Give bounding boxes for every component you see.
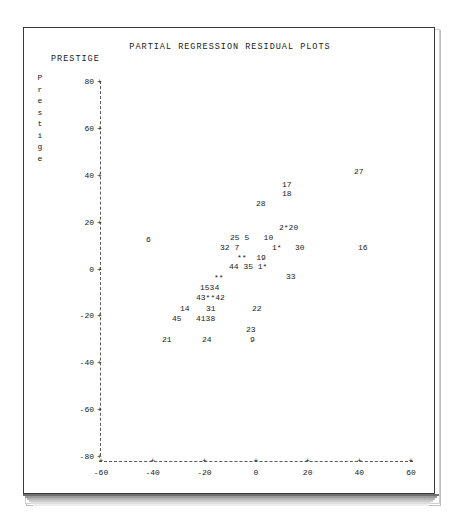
data-point-label-row-27: 27 bbox=[354, 168, 364, 176]
data-point-label-row-2-20: 2*20 bbox=[279, 224, 298, 232]
x-tick-marker: + bbox=[199, 456, 209, 465]
x-tick-marker: + bbox=[148, 456, 158, 465]
data-point-label-row-24: 24 bbox=[202, 336, 212, 344]
y-axis-label-char: t bbox=[34, 118, 46, 130]
data-point-label-row-16: 16 bbox=[358, 244, 368, 252]
y-tick-label: -20 bbox=[48, 311, 94, 320]
y-tick-marker: + bbox=[97, 218, 102, 227]
x-tick-marker: + bbox=[251, 456, 261, 465]
x-tick-marker: + bbox=[354, 456, 364, 465]
data-point-label-row-4138: 4138 bbox=[196, 315, 215, 323]
x-tick-label: 20 bbox=[293, 468, 323, 477]
y-axis-label-char: g bbox=[34, 141, 46, 153]
screenshot-page: PARTIAL REGRESSION RESIDUAL PLOTS PRESTI… bbox=[0, 0, 467, 526]
y-axis-label-char: s bbox=[34, 107, 46, 119]
data-point-label-row-43-42: 43**42 bbox=[196, 294, 225, 302]
x-tick-label: -60 bbox=[86, 468, 116, 477]
y-tick-marker: + bbox=[97, 405, 102, 414]
data-point-label-row-stars-a: ** bbox=[214, 274, 224, 282]
data-point-label-row-31: 31 bbox=[206, 305, 216, 313]
data-point-label-row-30: 30 bbox=[295, 244, 305, 252]
data-point-label-row-17: 17 bbox=[282, 181, 292, 189]
y-tick-label: 0 bbox=[48, 265, 94, 274]
y-tick-marker: + bbox=[97, 358, 102, 367]
y-tick-label: 60 bbox=[48, 124, 94, 133]
y-axis-vertical-label: Prestige bbox=[34, 72, 46, 164]
data-point-label-row-45: 45 bbox=[172, 315, 182, 323]
data-point-label-row-22: 22 bbox=[252, 305, 262, 313]
y-tick-marker: + bbox=[97, 124, 102, 133]
data-point-label-row-18: 18 bbox=[282, 190, 292, 198]
x-tick-marker: + bbox=[406, 456, 416, 465]
data-point-label-row-23: 23 bbox=[246, 326, 256, 334]
data-point-label-row-44-35-1: 44 35 1* bbox=[229, 263, 267, 271]
data-point-label-row-stars-19: ** 19 bbox=[237, 254, 266, 262]
y-tick-marker: + bbox=[97, 311, 102, 320]
data-point-label-row-1star: 1* bbox=[272, 244, 282, 252]
data-point-label-row-6: 6 bbox=[146, 236, 151, 244]
y-axis-label-char: i bbox=[34, 130, 46, 142]
data-point-label-row-9: 9 bbox=[250, 336, 255, 344]
y-axis-header: PRESTIGE bbox=[51, 54, 100, 64]
x-tick-marker: + bbox=[303, 456, 313, 465]
y-axis-label-char: e bbox=[34, 153, 46, 165]
x-tick-label: 40 bbox=[344, 468, 374, 477]
y-tick-label: -40 bbox=[48, 358, 94, 367]
y-tick-label: 20 bbox=[48, 218, 94, 227]
x-tick-label: -40 bbox=[138, 468, 168, 477]
plot-paper: PARTIAL REGRESSION RESIDUAL PLOTS PRESTI… bbox=[23, 27, 435, 494]
paper-bevel-shadow bbox=[23, 494, 439, 506]
y-tick-label: 40 bbox=[48, 171, 94, 180]
y-tick-marker: + bbox=[97, 171, 102, 180]
bevel-row bbox=[33, 504, 429, 506]
y-tick-label: -60 bbox=[48, 405, 94, 414]
data-point-label-row-33: 33 bbox=[286, 273, 296, 281]
page-title: PARTIAL REGRESSION RESIDUAL PLOTS bbox=[24, 42, 436, 52]
x-tick-label: 0 bbox=[241, 468, 271, 477]
data-point-label-row-32-7: 32 7 bbox=[220, 244, 239, 252]
y-axis-label-char: e bbox=[34, 95, 46, 107]
x-tick-marker: + bbox=[96, 456, 106, 465]
y-axis-label-char: r bbox=[34, 84, 46, 96]
y-tick-marker: + bbox=[97, 77, 102, 86]
y-tick-label: -80 bbox=[48, 452, 94, 461]
y-tick-label: 80 bbox=[48, 77, 94, 86]
y-tick-marker: + bbox=[97, 265, 102, 274]
y-axis-label-char: P bbox=[34, 72, 46, 84]
data-point-label-row-25-5-10: 25 5 10 bbox=[230, 234, 273, 242]
x-tick-label: 60 bbox=[396, 468, 426, 477]
x-tick-label: -20 bbox=[189, 468, 219, 477]
data-point-label-row-14: 14 bbox=[180, 305, 190, 313]
data-point-label-row-21: 21 bbox=[162, 336, 172, 344]
data-point-label-row-28: 28 bbox=[256, 200, 266, 208]
scatter-plot: PARTIAL REGRESSION RESIDUAL PLOTS PRESTI… bbox=[24, 28, 436, 495]
data-point-label-row-1534: 1534 bbox=[200, 284, 219, 292]
